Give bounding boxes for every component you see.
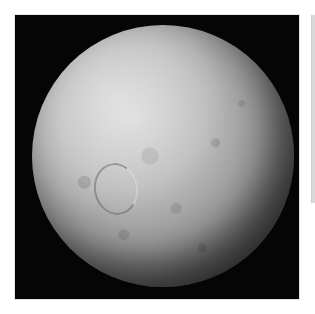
moon-sphere: [32, 25, 294, 287]
moon-image: [15, 15, 299, 299]
moon-crater-texture: [32, 25, 294, 287]
vertical-scrollbar-thumb[interactable]: [311, 15, 315, 203]
image-viewer: [0, 0, 315, 314]
